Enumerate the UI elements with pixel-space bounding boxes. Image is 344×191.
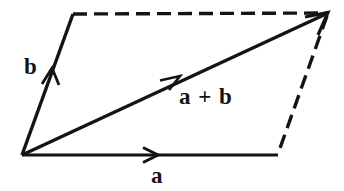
vector-diagram-canvas bbox=[0, 0, 344, 191]
right-dashed-edge bbox=[279, 16, 327, 151]
vector-b-label: b bbox=[24, 55, 37, 78]
top-dashed-edge bbox=[73, 13, 327, 14]
vector-a-label: a bbox=[151, 164, 163, 187]
vector-a-plus-b-label: a + b bbox=[179, 85, 233, 108]
vector-diagram: b a + b a bbox=[0, 0, 344, 191]
